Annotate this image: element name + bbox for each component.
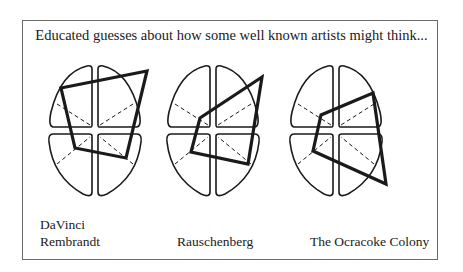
- brain-davinci: [49, 66, 147, 196]
- label-ocracoke: The Ocracoke Colony: [310, 233, 429, 250]
- thinking-profile-davinci: [61, 71, 147, 158]
- brain-ocracoke: [290, 66, 386, 196]
- label-rauschenberg: Rauschenberg: [177, 233, 253, 250]
- brain-rauschenberg: [167, 66, 262, 196]
- label-davinci: DaVinci: [40, 216, 85, 233]
- label-rembrandt: Rembrandt: [40, 233, 100, 250]
- thinking-profile-ocracoke: [313, 93, 386, 184]
